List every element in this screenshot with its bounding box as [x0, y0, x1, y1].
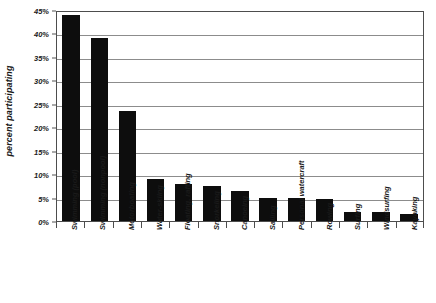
y-axis-title-text: percent participating [4, 65, 14, 156]
bar-slot [226, 12, 254, 221]
x-tick-label-slot: Canoeing [226, 228, 254, 303]
x-tick-label: Water-skiing [155, 185, 164, 230]
y-axis-title: percent participating [0, 0, 18, 222]
x-tick-label-slot: Water-skiing [141, 228, 169, 303]
x-tick-label-slot: Kayaking [396, 228, 424, 303]
y-tick-label: 45% [34, 7, 49, 16]
y-tick-label: 15% [34, 147, 49, 156]
x-tick-label: Snorkeling [212, 191, 221, 230]
x-tick-label: Canoeing [240, 196, 249, 230]
y-tick-label: 5% [38, 194, 49, 203]
bar-chart: percent participating 0%5%10%15%20%25%30… [0, 0, 436, 303]
x-tick-label-slot: Swimming (nonpool) [84, 228, 112, 303]
bar-slot [339, 12, 367, 221]
x-tick-label: Swimming (nonpool) [98, 156, 107, 230]
x-tick-label: Surfing [353, 204, 362, 230]
y-tick-label: 25% [34, 100, 49, 109]
y-tick-label: 0% [38, 218, 49, 227]
x-tick-label: Windsurfing [382, 186, 391, 230]
x-tick-label: Swimming (pool) [70, 170, 79, 230]
x-tick-label-slot: Snorkeling [198, 228, 226, 303]
plot-area [56, 11, 424, 222]
y-tick-label: 20% [34, 124, 49, 133]
x-tick-label: Motorboating [127, 182, 136, 230]
x-tick-label-slot: Personal watercraft [282, 228, 310, 303]
y-tick-label: 35% [34, 53, 49, 62]
x-tick-label-slot: Sailing [254, 228, 282, 303]
x-axis-tick-labels: Swimming (pool)Swimming (nonpool)Motorbo… [56, 228, 424, 303]
y-tick-label: 40% [34, 30, 49, 39]
bars-container [57, 12, 423, 221]
bar-slot [198, 12, 226, 221]
x-tick-label-slot: Windsurfing [367, 228, 395, 303]
x-tick-label: Floating, rafting [183, 173, 192, 230]
y-tick-label: 10% [34, 171, 49, 180]
y-axis-tick-labels: 0%5%10%15%20%25%30%35%40%45% [18, 11, 52, 222]
x-tick-label: Rowing [325, 203, 334, 230]
bar-slot [395, 12, 423, 221]
x-tick-label-slot: Floating, rafting [169, 228, 197, 303]
x-tick-label-slot: Surfing [339, 228, 367, 303]
x-tick-label: Personal watercraft [297, 160, 306, 230]
y-tick-label: 30% [34, 77, 49, 86]
bar-slot [254, 12, 282, 221]
x-tick-label-slot: Motorboating [113, 228, 141, 303]
bar-slot [310, 12, 338, 221]
x-tick-label-slot: Swimming (pool) [56, 228, 84, 303]
x-tick-label: Kayaking [410, 197, 419, 230]
x-tick-label-slot: Rowing [311, 228, 339, 303]
x-tick-label: Sailing [268, 205, 277, 230]
